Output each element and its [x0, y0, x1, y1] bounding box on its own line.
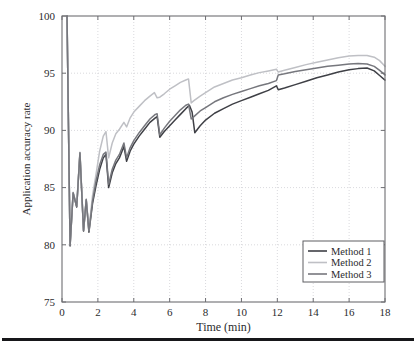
y-tick-label: 75	[44, 296, 56, 308]
legend-label-3: Method 3	[331, 269, 372, 280]
x-tick-label: 8	[203, 306, 209, 318]
x-tick-labels: 024681012141618	[59, 306, 391, 318]
x-tick-label: 6	[167, 306, 173, 318]
x-tick-label: 4	[131, 306, 137, 318]
x-tick-label: 2	[95, 306, 101, 318]
y-tick-label: 85	[44, 181, 56, 193]
y-tick-label: 100	[39, 10, 56, 22]
legend-label-2: Method 2	[331, 257, 372, 268]
figure-container: 024681012141618 7580859095100 Time (min)…	[0, 0, 416, 349]
y-tick-label: 80	[44, 239, 56, 251]
accuracy-line-chart: 024681012141618 7580859095100 Time (min)…	[0, 0, 416, 349]
x-axis-label: Time (min)	[196, 320, 251, 334]
legend-label-1: Method 1	[331, 246, 372, 257]
y-tick-label: 90	[44, 124, 56, 136]
y-tick-labels: 7580859095100	[39, 10, 56, 308]
y-axis-label: Application accuracy rate	[20, 102, 32, 215]
x-tick-label: 14	[308, 306, 320, 318]
y-tick-label: 95	[44, 67, 56, 79]
x-tick-label: 12	[272, 306, 283, 318]
figure-bottom-rule	[2, 338, 414, 341]
x-tick-label: 18	[380, 306, 392, 318]
x-tick-label: 10	[236, 306, 248, 318]
x-tick-label: 0	[59, 306, 65, 318]
chart-legend: Method 1Method 2Method 3	[303, 241, 384, 282]
x-tick-label: 16	[344, 306, 356, 318]
